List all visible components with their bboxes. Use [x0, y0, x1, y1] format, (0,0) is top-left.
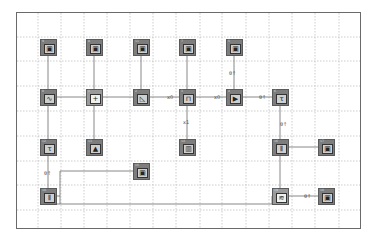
sum-icon: + — [90, 94, 101, 104]
block-source[interactable]: 0∿ — [40, 89, 57, 106]
scope-icon: ▣ — [90, 44, 101, 54]
block-number: 19 — [274, 189, 278, 192]
noise-icon: ▲ — [90, 144, 101, 154]
block-number: 16 — [274, 140, 278, 143]
delay-icon: τ — [276, 94, 287, 104]
block-number: 12 — [42, 140, 46, 143]
scope-icon: ▣ — [322, 193, 333, 203]
bank-icon: ▥ — [183, 144, 194, 154]
block-number: 8 — [88, 40, 90, 43]
multiplexer-icon: ⊓ — [183, 94, 194, 104]
wire-label: x0 — [167, 94, 173, 100]
block-number: 13 — [88, 140, 92, 143]
scope-icon: ▣ — [183, 44, 194, 54]
block-number: 10 — [320, 189, 324, 192]
block-scope3[interactable]: 11▣ — [133, 39, 150, 56]
block-multiplexer[interactable]: 3⊓ — [179, 89, 196, 106]
block-demux1[interactable]: 16⫴ — [272, 139, 289, 156]
block-number: 1 — [88, 90, 90, 93]
wire-label: x1 — [183, 119, 189, 125]
block-number: 2 — [135, 90, 137, 93]
scope-icon: ▣ — [322, 144, 333, 154]
wire-label: θ↑ — [304, 193, 311, 199]
diagram-canvas: 9▣8▣11▣7▣5▣0∿1+2◺3⊓4▶6τ12τ13▲14▥16⫴17▣15… — [0, 0, 376, 247]
block-number: 6 — [274, 90, 276, 93]
block-correlator[interactable]: 19≋ — [272, 188, 289, 205]
correlator-icon: ≋ — [276, 193, 287, 203]
block-number: 14 — [181, 140, 185, 143]
block-delay2[interactable]: 12τ — [40, 139, 57, 156]
block-sum[interactable]: 1+ — [86, 89, 103, 106]
filter-icon: ◺ — [137, 94, 148, 104]
scope-icon: ▣ — [137, 168, 148, 178]
block-number: 11 — [135, 40, 139, 43]
demux-icon: ⫴ — [44, 193, 55, 203]
scope-icon: ▣ — [230, 44, 241, 54]
block-scope4[interactable]: 7▣ — [179, 39, 196, 56]
wire-label: x0 — [214, 94, 220, 100]
block-scope7[interactable]: 15▣ — [133, 163, 150, 180]
block-bank[interactable]: 14▥ — [179, 139, 196, 156]
block-number: 15 — [135, 164, 139, 167]
block-number: 7 — [181, 40, 183, 43]
block-number: 17 — [320, 140, 324, 143]
block-number: 9 — [42, 40, 44, 43]
wire-label: θ↑ — [44, 170, 51, 176]
block-demux2[interactable]: 18⫴ — [40, 188, 57, 205]
block-filter[interactable]: 2◺ — [133, 89, 150, 106]
wire-label: θ↑ — [229, 70, 236, 76]
block-player[interactable]: 4▶ — [226, 89, 243, 106]
delay-icon: τ — [44, 144, 55, 154]
block-noise[interactable]: 13▲ — [86, 139, 103, 156]
block-number: 3 — [181, 90, 183, 93]
demux-icon: ⫴ — [276, 144, 287, 154]
wire-label: θ↑ — [280, 121, 287, 127]
block-scope6[interactable]: 17▣ — [318, 139, 335, 156]
play-icon: ▶ — [230, 94, 241, 104]
wire-label: θ↑ — [259, 94, 266, 100]
block-number: 5 — [228, 40, 230, 43]
block-scope1[interactable]: 9▣ — [40, 39, 57, 56]
block-number: 18 — [42, 189, 46, 192]
block-number: 0 — [42, 90, 44, 93]
scope-icon: ▣ — [44, 44, 55, 54]
block-scope8[interactable]: 10▣ — [318, 188, 335, 205]
signal-source-icon: ∿ — [44, 94, 55, 104]
scope-icon: ▣ — [137, 44, 148, 54]
block-scope2[interactable]: 8▣ — [86, 39, 103, 56]
block-number: 4 — [228, 90, 230, 93]
block-delay1[interactable]: 6τ — [272, 89, 289, 106]
block-scope5[interactable]: 5▣ — [226, 39, 243, 56]
